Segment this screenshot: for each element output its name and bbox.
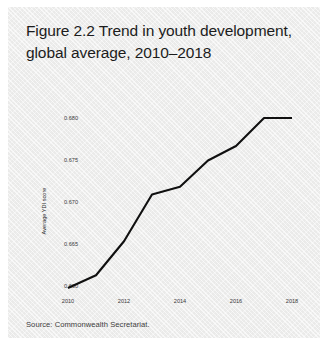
x-tick-label: 2018 bbox=[286, 298, 298, 304]
y-tick-label: 0.665 bbox=[64, 241, 78, 247]
y-tick-label: 0.675 bbox=[64, 157, 78, 163]
source-note: Source: Commonwealth Secretariat. bbox=[26, 319, 150, 330]
x-tick-label: 2010 bbox=[62, 298, 74, 304]
figure-panel: Figure 2.2 Trend in youth development, g… bbox=[8, 7, 320, 338]
chart-plot-area: 0.680 0.675 0.670 0.665 0.660 Average YD… bbox=[8, 7, 320, 338]
y-axis-title: Average YDI score bbox=[41, 188, 47, 235]
y-axis-tick-labels: 0.680 0.675 0.670 0.665 0.660 bbox=[64, 115, 78, 289]
line-chart-svg: 0.680 0.675 0.670 0.665 0.660 Average YD… bbox=[8, 7, 320, 338]
y-tick-label: 0.680 bbox=[64, 115, 78, 121]
y-tick-label: 0.670 bbox=[64, 199, 78, 205]
x-axis-tick-labels: 2010 2012 2014 2016 2018 bbox=[62, 298, 298, 304]
y-axis-title-label: Average YDI score bbox=[41, 188, 47, 235]
x-tick-label: 2012 bbox=[118, 298, 130, 304]
data-series-line bbox=[68, 118, 292, 288]
x-tick-label: 2016 bbox=[230, 298, 242, 304]
x-tick-label: 2014 bbox=[174, 298, 186, 304]
